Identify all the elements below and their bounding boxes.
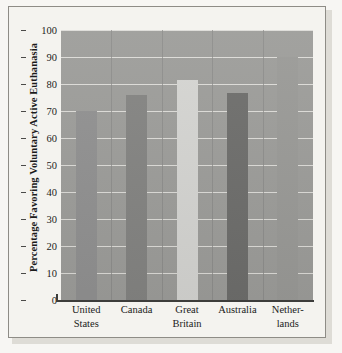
y-tick-label: 10	[27, 268, 57, 279]
bar	[227, 93, 248, 300]
category-separator	[111, 30, 112, 300]
x-axis-tick-labels: UnitedStatesCanadaGreatBritainAustraliaN…	[61, 303, 313, 349]
y-tick-label: 70	[27, 106, 57, 117]
x-tick-label-line: Great	[162, 303, 212, 317]
x-tick-label-line: States	[61, 317, 111, 331]
y-tick-label: 50	[27, 160, 57, 171]
x-tick-label: UnitedStates	[61, 303, 111, 330]
y-tick-mark	[21, 138, 26, 139]
gridline	[61, 30, 313, 31]
x-tick-label-line: United	[61, 303, 111, 317]
y-tick-mark	[21, 57, 26, 58]
x-tick-label-line: lands	[263, 317, 313, 331]
y-tick-label: 30	[27, 214, 57, 225]
x-tick-label-line: Australia	[212, 303, 262, 317]
y-axis-tick-labels: 0102030405060708090100	[26, 30, 57, 300]
x-axis-line	[56, 300, 314, 302]
y-tick-mark	[21, 246, 26, 247]
bar	[76, 111, 97, 300]
y-tick-mark	[21, 84, 26, 85]
y-tick-label: 60	[27, 133, 57, 144]
chart-figure: Percentage Favoring Voluntary Active Eut…	[0, 0, 342, 353]
gridline	[61, 57, 313, 58]
category-separator	[212, 30, 213, 300]
x-tick-label-line: Nether-	[263, 303, 313, 317]
x-tick-label: Nether-lands	[263, 303, 313, 330]
y-tick-label: 80	[27, 79, 57, 90]
y-tick-label: 0	[27, 295, 57, 306]
y-tick-label: 20	[27, 241, 57, 252]
bar	[177, 80, 198, 300]
bar	[277, 57, 298, 300]
plot-area	[61, 30, 313, 300]
y-tick-mark	[21, 165, 26, 166]
category-separator	[263, 30, 264, 300]
y-tick-mark	[21, 219, 26, 220]
y-tick-mark	[21, 192, 26, 193]
y-tick-label: 90	[27, 52, 57, 63]
y-tick-mark	[21, 273, 26, 274]
x-tick-label: Canada	[111, 303, 161, 317]
x-tick-label: Australia	[212, 303, 262, 317]
y-tick-mark	[21, 111, 26, 112]
x-tick-label-line: Canada	[111, 303, 161, 317]
x-tick-label-line: Britain	[162, 317, 212, 331]
y-tick-label: 40	[27, 187, 57, 198]
y-tick-mark	[21, 300, 26, 301]
y-tick-label: 100	[27, 25, 57, 36]
category-separator	[162, 30, 163, 300]
x-tick-label: GreatBritain	[162, 303, 212, 330]
y-tick-mark	[21, 30, 26, 31]
bar	[126, 95, 147, 300]
